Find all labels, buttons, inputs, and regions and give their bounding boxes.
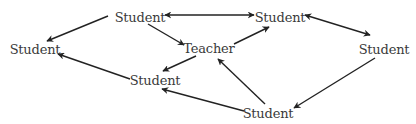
edge-group — [47, 15, 375, 111]
arrow-s1-to-teacher — [148, 24, 184, 45]
network-diagram: Student Student Student Teacher Student … — [0, 0, 416, 124]
edges-layer — [0, 0, 416, 124]
arrow-teacher-to-s2 — [234, 27, 269, 44]
arrow-s6-to-s5 — [162, 89, 244, 111]
arrow-teacher-to-s5 — [163, 56, 196, 71]
arrow-s6-to-teacher — [218, 59, 265, 104]
node-student-top-right: Student — [255, 11, 306, 24]
node-student-left: Student — [10, 43, 61, 56]
arrow-s4-to-s6 — [294, 58, 375, 108]
arrow-s5-to-s3 — [58, 54, 130, 79]
node-student-bottom: Student — [243, 107, 294, 120]
node-student-top-center: Student — [115, 11, 166, 24]
node-student-middle: Student — [130, 74, 181, 87]
node-student-right: Student — [359, 43, 410, 56]
arrow-s2-to-s4 — [305, 15, 370, 35]
node-teacher: Teacher — [183, 42, 234, 55]
arrow-s1-to-s3 — [47, 16, 108, 41]
